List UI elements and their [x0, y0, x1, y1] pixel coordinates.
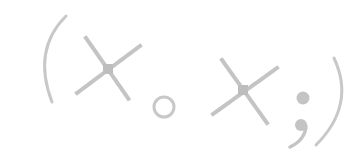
right-paren-icon — [316, 58, 342, 145]
emoticon-graphic: (×。×;) — [0, 0, 362, 168]
mouth-circle-icon — [154, 97, 174, 117]
right-eye-x-icon — [213, 60, 277, 123]
left-eye-x-icon — [77, 38, 140, 101]
left-paren-icon — [45, 16, 66, 102]
sweat-semicolon-icon — [290, 92, 310, 148]
